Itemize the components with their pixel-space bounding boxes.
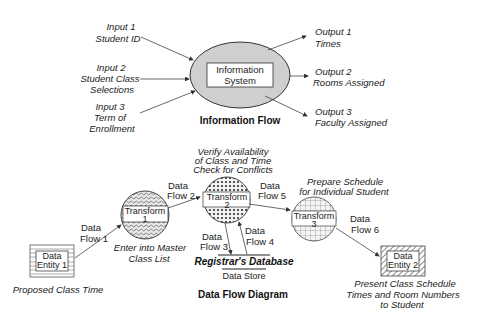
transform-1-caption-line2: Class List xyxy=(128,253,170,264)
transform-2-num: 2 xyxy=(224,200,229,210)
output-2-line2: Rooms Assigned xyxy=(313,77,385,88)
flow-2-line2: Flow 2 xyxy=(167,190,195,201)
diagram-canvas: Information System Information Flow Inpu… xyxy=(0,0,478,327)
transform-1: Transform 1 xyxy=(121,191,169,239)
data-flow-diagram-title: Data Flow Diagram xyxy=(198,289,288,300)
output-3-line1: Output 3 xyxy=(315,106,352,117)
data-entity-2: Data Entity 2 xyxy=(381,246,425,276)
transform-2: Transform 2 xyxy=(203,177,250,223)
transform-3-num: 3 xyxy=(311,219,316,229)
output-3-line2: Faculty Assigned xyxy=(315,117,388,128)
input-3-line2: Term of xyxy=(94,112,127,123)
data-store-registrars-database: Registrar's Database Data Store xyxy=(194,255,294,281)
output-1-line2: Times xyxy=(315,38,341,49)
output-1-arrow xyxy=(268,36,306,50)
input-3-line3: Enrollment xyxy=(89,123,135,134)
input-2-line3: Selections xyxy=(90,84,134,95)
flow-5-arrow xyxy=(249,204,290,210)
input-1-line2: Student ID xyxy=(96,33,141,44)
information-flow-section: Information System Information Flow Inpu… xyxy=(80,21,387,134)
data-flow-diagram-section: Data Entity 1 Proposed Class Time Data F… xyxy=(13,146,460,310)
flow-4-line2: Flow 4 xyxy=(246,236,274,247)
output-1-line1: Output 1 xyxy=(315,26,351,37)
entity-2-caption-line1: Present Class Schedule xyxy=(354,278,455,289)
flow-4-line1: Data xyxy=(245,225,266,236)
data-store-label: Data Store xyxy=(222,271,265,281)
data-entity-1: Data Entity 1 xyxy=(30,245,74,277)
entity-2-line2: Entity 2 xyxy=(388,260,418,270)
data-store-name: Registrar's Database xyxy=(194,256,294,267)
transform-1-caption-line1: Enter into Master xyxy=(114,242,187,253)
output-3-arrow xyxy=(265,96,307,116)
flow-1-line2: Flow 1 xyxy=(80,233,108,244)
flow-3-line2: Flow 3 xyxy=(200,241,228,252)
information-flow-title: Information Flow xyxy=(200,115,281,126)
flow-5-line2: Flow 5 xyxy=(258,190,286,201)
input-3-arrow xyxy=(140,91,195,113)
system-label-line2: System xyxy=(224,75,256,86)
system-label-line1: Information xyxy=(216,64,264,75)
input-1-line1: Input 1 xyxy=(106,21,135,32)
input-1-arrow xyxy=(141,37,193,60)
transform-3-caption-line2: for Individual Student xyxy=(299,186,389,197)
entity-2-caption-line3: to Student xyxy=(380,299,424,310)
flow-6-line1: Data xyxy=(350,213,371,224)
entity-1-line2: Entity 1 xyxy=(37,260,67,270)
transform-3: Transform 3 xyxy=(292,197,336,241)
output-2-line1: Output 2 xyxy=(315,66,352,77)
input-3-line1: Input 3 xyxy=(95,101,125,112)
input-2-line2: Student Class xyxy=(80,73,139,84)
input-2-line1: Input 2 xyxy=(96,62,126,73)
flow-6-line2: Flow 6 xyxy=(351,224,379,235)
transform-2-caption-line3: Check for Conflicts xyxy=(193,164,273,175)
entity-1-caption: Proposed Class Time xyxy=(13,284,104,295)
transform-1-num: 1 xyxy=(142,214,147,224)
flow-1-line1: Data xyxy=(81,222,102,233)
